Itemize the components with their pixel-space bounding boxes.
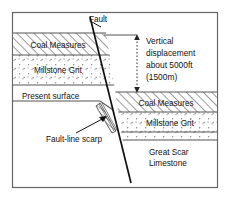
left-coal-measures-label: Coal Measures [30, 41, 85, 50]
present-surface-label: Present surface [22, 92, 80, 101]
displacement-text-line3: about 5000ft [146, 60, 193, 70]
right-millstone-grit-label: Millstone Grit [146, 119, 194, 128]
right-coal-measures-label: Coal Measures [138, 99, 193, 108]
displacement-text-line2: displacement [146, 48, 196, 58]
great-scar-limestone-label-line2: Limestone [149, 159, 187, 168]
displacement-text-line1: Vertical [146, 36, 174, 46]
geological-cross-section: Fault Coal Measures Millstone Grit Prese… [0, 0, 229, 201]
figure-root: Fault Coal Measures Millstone Grit Prese… [0, 0, 229, 201]
left-millstone-grit-label: Millstone Grit [34, 66, 82, 75]
displacement-text-line4: (1500m) [146, 72, 177, 82]
fault-label: Fault [89, 15, 108, 24]
great-scar-limestone-label-line1: Great Scar [149, 148, 189, 157]
fault-line-scarp-label: Fault-line scarp [46, 135, 102, 144]
